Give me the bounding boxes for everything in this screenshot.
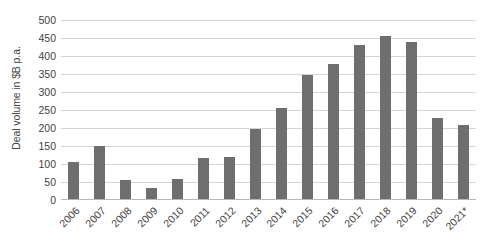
bar[interactable] [172, 179, 183, 200]
bar-slot [139, 20, 165, 200]
x-tick-label: 2012 [213, 205, 237, 229]
bar-slot [294, 20, 320, 200]
y-axis-tick-labels: 500450400350300250200150100500 [24, 20, 56, 200]
bar-slot [87, 20, 113, 200]
bar-slot [243, 20, 269, 200]
y-tick-label: 200 [24, 123, 56, 133]
x-tick-label: 2013 [239, 205, 263, 229]
bar-slot [346, 20, 372, 200]
bar-slot [165, 20, 191, 200]
x-tick-label: 2018 [369, 205, 393, 229]
x-label-slot: 2010 [165, 202, 191, 248]
y-tick-label: 100 [24, 159, 56, 169]
x-tick-label: 2011 [188, 205, 212, 229]
bar[interactable] [328, 64, 339, 200]
x-tick-label: 2015 [291, 205, 315, 229]
bar[interactable] [198, 158, 209, 200]
y-tick-label: 50 [24, 177, 56, 187]
x-label-slot: 2018 [372, 202, 398, 248]
bar[interactable] [380, 36, 391, 200]
x-label-slot: 2008 [113, 202, 139, 248]
plot-area [61, 20, 476, 200]
x-tick-label: 2008 [109, 205, 133, 229]
x-label-slot: 2012 [217, 202, 243, 248]
y-axis-title: Deal volume in $B p.a. [9, 0, 23, 198]
x-tick-label: 2016 [317, 205, 341, 229]
x-label-slot: 2009 [139, 202, 165, 248]
y-tick-label: 450 [24, 33, 56, 43]
y-tick-label: 150 [24, 141, 56, 151]
y-tick-label: 350 [24, 69, 56, 79]
x-label-slot: 2015 [294, 202, 320, 248]
x-tick-label: 2010 [161, 205, 185, 229]
x-label-slot: 2007 [87, 202, 113, 248]
y-tick-label: 500 [24, 15, 56, 25]
bar-slot [320, 20, 346, 200]
bar[interactable] [250, 129, 261, 200]
y-tick-label: 250 [24, 105, 56, 115]
bar-slot [217, 20, 243, 200]
y-tick-label: 0 [24, 195, 56, 205]
y-tick-label: 300 [24, 87, 56, 97]
y-tick-label: 400 [24, 51, 56, 61]
x-label-slot: 2021* [450, 202, 476, 248]
x-tick-label: 2019 [395, 205, 419, 229]
x-label-slot: 2006 [61, 202, 87, 248]
bar-slot [191, 20, 217, 200]
x-tick-label: 2007 [83, 205, 107, 229]
bar[interactable] [354, 45, 365, 200]
x-label-slot: 2016 [320, 202, 346, 248]
x-tick-label: 2017 [343, 205, 367, 229]
bar-slot [269, 20, 295, 200]
bar[interactable] [224, 157, 235, 200]
bar-slot [372, 20, 398, 200]
x-label-slot: 2013 [243, 202, 269, 248]
bar[interactable] [120, 180, 131, 200]
bar-slot [398, 20, 424, 200]
x-label-slot: 2017 [346, 202, 372, 248]
bar-slot [61, 20, 87, 200]
bar-chart: Deal volume in $B p.a. 50045040035030025… [0, 0, 482, 252]
x-tick-label: 2020 [421, 205, 445, 229]
bar[interactable] [406, 42, 417, 200]
bar-slot [424, 20, 450, 200]
x-label-slot: 2019 [398, 202, 424, 248]
bar[interactable] [458, 125, 469, 200]
x-axis-line [61, 199, 476, 200]
x-label-slot: 2011 [191, 202, 217, 248]
bar[interactable] [302, 75, 313, 200]
x-axis-tick-labels: 2006200720082009201020112012201320142015… [61, 202, 476, 248]
bar[interactable] [432, 118, 443, 200]
bar[interactable] [276, 108, 287, 200]
bar[interactable] [94, 146, 105, 200]
x-tick-label: 2009 [135, 205, 159, 229]
bar-slot [450, 20, 476, 200]
bar-slot [113, 20, 139, 200]
x-tick-label: 2006 [57, 205, 81, 229]
bars-container [61, 20, 476, 200]
x-label-slot: 2014 [269, 202, 295, 248]
x-tick-label: 2014 [265, 205, 289, 229]
bar[interactable] [68, 162, 79, 200]
